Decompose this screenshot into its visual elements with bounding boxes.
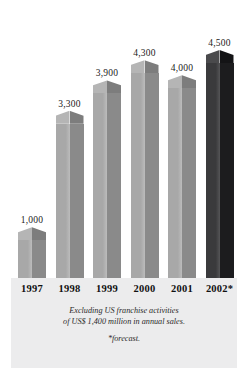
bar-right-face: [32, 240, 46, 278]
bar-2002-forecast: 4,500: [206, 50, 234, 278]
bar-chart-figure: 1,0003,3003,9004,3004,0004,500 199719981…: [0, 0, 249, 377]
bar-cap-right-face: [32, 227, 46, 240]
bar-cap: [93, 80, 121, 93]
x-axis-label-1999: 1999: [88, 283, 126, 294]
x-axis-label-2000: 2000: [126, 283, 164, 294]
bar-right-face: [70, 124, 84, 278]
bar-right-face: [107, 93, 121, 278]
bar-value-label: 1,000: [21, 215, 43, 225]
bar-value-label: 3,300: [58, 99, 80, 109]
x-axis-year-labels: 199719981999200020012002*: [11, 283, 237, 301]
bar-cap-left-face: [206, 50, 220, 63]
x-axis-label-1998: 1998: [51, 283, 89, 294]
bar-cap-right-face: [182, 75, 196, 88]
footnote-forecast: *forecast.: [11, 334, 237, 345]
bar-cap: [168, 75, 196, 88]
bar-1999: 3,900: [93, 80, 121, 278]
bar-cap-right-face: [145, 60, 159, 73]
bar-value-label: 4,000: [171, 63, 193, 73]
bar-right-face: [182, 88, 196, 278]
bar-cap-left-face: [168, 75, 182, 88]
x-axis-label-2002-forecast: 2002*: [201, 283, 239, 294]
bar-2000: 4,300: [131, 60, 159, 278]
bar-left-face: [93, 93, 107, 278]
bar-shaft: [206, 63, 234, 278]
bar-shaft: [56, 124, 84, 278]
bar-cap: [18, 227, 46, 240]
bar-cap: [56, 111, 84, 124]
bar-cap: [131, 60, 159, 73]
footnote-line-1: Excluding US franchise activities: [11, 306, 237, 317]
chart-footer-panel: 199719981999200020012002* Excluding US f…: [11, 278, 237, 368]
bar-value-label: 4,500: [208, 38, 230, 48]
bar-left-face: [206, 63, 220, 278]
bar-left-face: [131, 73, 145, 278]
bar-right-face: [220, 63, 234, 278]
bar-shaft: [93, 93, 121, 278]
x-axis-label-1997: 1997: [13, 283, 51, 294]
bar-left-face: [56, 124, 70, 278]
bar-left-face: [168, 88, 182, 278]
bar-1998: 3,300: [56, 111, 84, 278]
bar-left-face: [18, 240, 32, 278]
bar-1997: 1,000: [18, 227, 46, 278]
bar-shaft: [18, 240, 46, 278]
bar-cap-right-face: [70, 111, 84, 124]
bar-value-label: 3,900: [96, 68, 118, 78]
bar-shaft: [168, 88, 196, 278]
footnote-line-2: of US$ 1,400 million in annual sales.: [11, 317, 237, 328]
bar-cap: [206, 50, 234, 63]
bar-cap-left-face: [93, 80, 107, 93]
bar-2001: 4,000: [168, 75, 196, 278]
bar-cap-right-face: [220, 50, 234, 63]
bar-value-label: 4,300: [133, 48, 155, 58]
bar-right-face: [145, 73, 159, 278]
bar-cap-left-face: [56, 111, 70, 124]
chart-plot-area: 1,0003,3003,9004,3004,0004,500: [0, 0, 249, 278]
x-axis-label-2001: 2001: [163, 283, 201, 294]
bar-shaft: [131, 73, 159, 278]
footnote-exclusion: Excluding US franchise activities of US$…: [11, 306, 237, 327]
bar-cap-left-face: [18, 227, 32, 240]
bar-cap-right-face: [107, 80, 121, 93]
bar-cap-left-face: [131, 60, 145, 73]
